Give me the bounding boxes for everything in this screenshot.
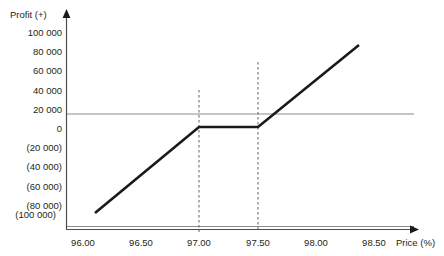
x-tick-label-96-50: 96.50 [111, 238, 171, 248]
y-axis-arrow-icon [63, 9, 71, 18]
profit-price-chart: Profit (+) 100 000 80 000 60 000 40 000 … [0, 0, 444, 256]
y-tick-label-40000: 40 000 [2, 86, 62, 96]
y-tick-label-20000: 20 000 [2, 105, 62, 115]
x-tick-label-97-50: 97.50 [228, 238, 288, 248]
y-tick-label-neg60000: (60 000) [2, 182, 62, 192]
x-tick-label-98-50: 98.50 [344, 238, 404, 248]
y-axis-title: Profit (+) [10, 10, 47, 20]
profit-series-line [95, 45, 359, 213]
y-tick-label-60000: 60 000 [2, 66, 62, 76]
y-tick-label-neg40000: (40 000) [2, 162, 62, 172]
chart-canvas [0, 0, 444, 256]
x-tick-label-97-00: 97.00 [169, 238, 229, 248]
x-tick-label-96-00: 96.00 [53, 238, 113, 248]
y-tick-label-0: 0 [2, 124, 62, 134]
x-axis-arrow-icon [410, 226, 419, 234]
y-tick-label-100000: 100 000 [2, 28, 62, 38]
x-tick-label-98-00: 98.00 [286, 238, 346, 248]
y-tick-label-neg100000: (100 000) [0, 210, 56, 220]
x-axis-title: Price (%) [396, 238, 435, 248]
y-tick-label-80000: 80 000 [2, 47, 62, 57]
y-tick-label-neg20000: (20 000) [2, 143, 62, 153]
